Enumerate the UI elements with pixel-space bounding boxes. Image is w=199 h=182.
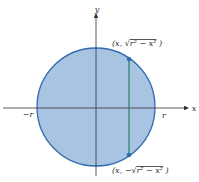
bottom-label-expr: r² − x²: [137, 166, 164, 175]
neg-r-tick-label: −r: [23, 110, 35, 119]
bottom-point-label: (x, −√r² − x² ): [112, 166, 169, 175]
bottom-label-prefix: (x, −: [112, 166, 131, 175]
top-label-suffix: ): [156, 39, 162, 48]
top-label-prefix: (x,: [112, 39, 125, 48]
y-axis-label: y: [94, 5, 100, 14]
pos-r-tick-label: r: [162, 111, 167, 120]
svg-text:(x, √r² − x² ): (x, √r² − x² ): [112, 39, 162, 48]
bottom-label-suffix: ): [163, 166, 169, 175]
svg-text:(x, −√r² − x² ): (x, −√r² − x² ): [112, 166, 169, 175]
point-bottom: [127, 153, 132, 158]
circle-diagram: x y −r r (x, √r² − x² ) (x, −√r² − x² ): [0, 0, 199, 182]
point-top: [127, 57, 132, 62]
top-label-expr: r² − x²: [130, 39, 157, 48]
top-point-label: (x, √r² − x² ): [112, 39, 162, 48]
x-axis-label: x: [192, 104, 197, 113]
